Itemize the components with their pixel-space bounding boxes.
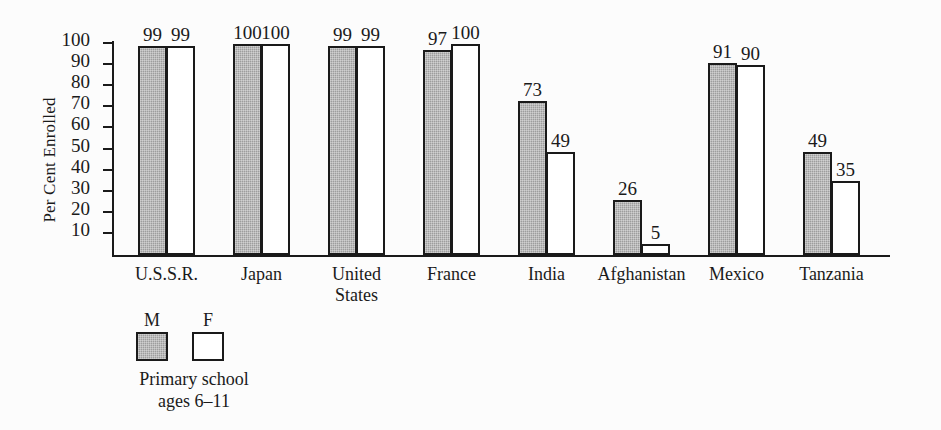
y-tick-label: 100: [44, 30, 90, 50]
bar-female: 99: [166, 46, 195, 255]
bar-male: 49: [803, 152, 832, 255]
x-axis-line: [112, 255, 890, 257]
y-tick: 10: [103, 232, 112, 234]
plot-area: 102030405060708090100 999910010099999710…: [112, 44, 890, 255]
y-tick-label: 30: [44, 178, 90, 198]
y-tick-label: 10: [44, 220, 90, 240]
bar-value-label: 91: [713, 42, 732, 62]
y-tick: 100: [103, 42, 112, 44]
y-tick: 40: [103, 169, 112, 171]
bar-group: 265: [613, 44, 670, 255]
y-tick: 60: [103, 126, 112, 128]
bar-group: 100100: [233, 44, 290, 255]
bar-male: 91: [708, 63, 737, 255]
y-axis-line: [112, 41, 114, 255]
legend-swatch-male: [136, 332, 168, 361]
bar-female: 90: [736, 65, 765, 255]
bar-male: 99: [328, 46, 357, 255]
legend-caption: Primary school ages 6–11: [104, 368, 284, 412]
y-tick: 80: [103, 84, 112, 86]
bar-group: 9999: [328, 44, 385, 255]
y-tick: 90: [103, 63, 112, 65]
bar-value-label: 5: [651, 223, 661, 243]
bar-value-label: 99: [171, 25, 190, 45]
x-axis-label: Tanzania: [772, 264, 892, 285]
bar-male: 100: [233, 44, 262, 255]
y-tick-label: 70: [44, 93, 90, 113]
bar-group: 97100: [423, 44, 480, 255]
bar-male: 99: [138, 46, 167, 255]
bar-female: 100: [451, 44, 480, 255]
bar-group: 9190: [708, 44, 765, 255]
bar-value-label: 73: [523, 80, 542, 100]
bar-female: 49: [546, 152, 575, 255]
legend-swatch-female: [192, 332, 224, 361]
bar-value-label: 90: [741, 44, 760, 64]
bar-value-label: 97: [428, 29, 447, 49]
bar-female: 100: [261, 44, 290, 255]
bar-female: 35: [831, 181, 860, 255]
bar-chart: Per Cent Enrolled 102030405060708090100 …: [0, 0, 941, 430]
y-tick: 20: [103, 211, 112, 213]
bar-female: 5: [641, 244, 670, 255]
bar-male: 26: [613, 200, 642, 255]
y-tick-label: 50: [44, 136, 90, 156]
legend: M F Primary school ages 6–11: [112, 312, 342, 382]
bar-value-label: 100: [233, 23, 262, 43]
bar-value-label: 49: [551, 131, 570, 151]
bar-value-label: 35: [836, 160, 855, 180]
bar-group: 4935: [803, 44, 860, 255]
bar-male: 73: [518, 101, 547, 255]
y-tick-label: 40: [44, 157, 90, 177]
bar-value-label: 100: [451, 23, 480, 43]
legend-label-female: F: [192, 310, 224, 330]
bar-value-label: 99: [333, 25, 352, 45]
y-tick-label: 80: [44, 72, 90, 92]
bar-value-label: 49: [808, 131, 827, 151]
bar-value-label: 100: [261, 23, 290, 43]
bar-value-label: 99: [361, 25, 380, 45]
y-tick: 70: [103, 105, 112, 107]
y-tick-label: 60: [44, 114, 90, 134]
bar-male: 97: [423, 50, 452, 255]
bar-value-label: 26: [618, 179, 637, 199]
y-tick-label: 90: [44, 51, 90, 71]
y-tick: 50: [103, 148, 112, 150]
y-tick-label: 20: [44, 199, 90, 219]
bar-female: 99: [356, 46, 385, 255]
bar-value-label: 99: [143, 25, 162, 45]
legend-label-male: M: [136, 310, 168, 330]
bar-group: 7349: [518, 44, 575, 255]
bar-group: 9999: [138, 44, 195, 255]
y-tick: 30: [103, 190, 112, 192]
